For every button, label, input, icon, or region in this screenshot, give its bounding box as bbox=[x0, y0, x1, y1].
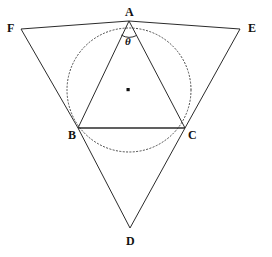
vertex-label-D: D bbox=[126, 235, 135, 247]
center-point-dot bbox=[127, 88, 130, 91]
vertex-label-E: E bbox=[248, 22, 256, 34]
vertex-label-B: B bbox=[68, 129, 76, 141]
geometry-figure: A B C D E F θ bbox=[0, 0, 272, 257]
vertex-label-A: A bbox=[125, 6, 134, 18]
geometry-canvas bbox=[0, 0, 272, 257]
segment-AC bbox=[129, 21, 185, 128]
vertex-label-C: C bbox=[188, 129, 197, 141]
vertex-label-F: F bbox=[7, 22, 14, 34]
segment-AB bbox=[78, 21, 129, 128]
angle-label-theta: θ bbox=[125, 36, 131, 47]
